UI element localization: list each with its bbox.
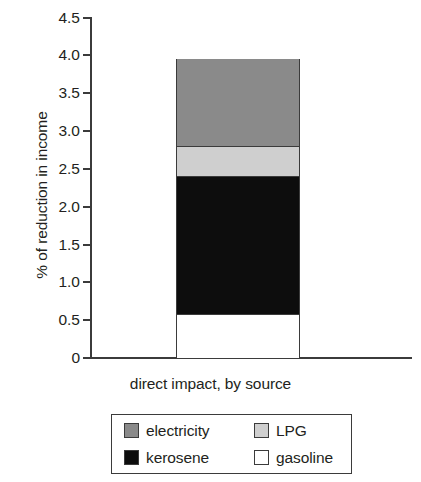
legend-label-gasoline: gasoline [276, 450, 333, 466]
y-axis-tick-label: 4.0 [58, 47, 80, 62]
y-axis-tick-mark [83, 130, 91, 132]
y-axis-tick-mark [83, 319, 91, 321]
y-axis-tick-mark [83, 54, 91, 56]
bar-direct-impact [176, 59, 300, 358]
legend-label-electricity: electricity [146, 423, 210, 439]
y-axis-tick-label: 2.5 [58, 161, 80, 176]
legend-item-gasoline: gasoline [254, 450, 351, 466]
bar-segment-electricity [176, 59, 300, 146]
legend-item-kerosene: kerosene [124, 450, 254, 466]
y-axis-tick-mark [83, 206, 91, 208]
x-axis-title: direct impact, by source [0, 375, 421, 393]
y-axis-line [90, 17, 92, 359]
legend-swatch-gasoline [254, 450, 269, 465]
y-axis-tick-label: 1.0 [58, 274, 80, 289]
y-axis-tick-mark [83, 92, 91, 94]
y-axis-tick-label: 4.5 [58, 10, 80, 25]
legend-swatch-electricity [124, 423, 139, 438]
bar-segment-kerosene [176, 176, 300, 314]
y-axis-tick-mark [83, 281, 91, 283]
legend-swatch-kerosene [124, 450, 139, 465]
y-axis-tick-mark [83, 244, 91, 246]
y-axis-tick-mark [83, 168, 91, 170]
y-axis-tick-label: 0.5 [58, 312, 80, 327]
y-axis-tick-label: 3.0 [58, 123, 80, 138]
y-axis-tick-label: 0 [71, 350, 80, 365]
y-axis-tick-label: 1.5 [58, 237, 80, 252]
legend-item-electricity: electricity [124, 423, 254, 439]
y-axis-tick-label: 2.0 [58, 199, 80, 214]
bar-segment-lpg [176, 146, 300, 176]
legend-item-lpg: LPG [254, 423, 351, 439]
legend-swatch-lpg [254, 423, 269, 438]
y-axis-tick-mark [83, 357, 91, 359]
y-axis-tick-mark [83, 17, 91, 19]
y-axis-tick-label: 3.5 [58, 85, 80, 100]
chart-legend: electricity LPG kerosene gasoline [111, 414, 352, 474]
legend-label-lpg: LPG [276, 423, 307, 439]
y-axis-title: % of reduction in income [33, 65, 51, 325]
stacked-bar-chart: % of reduction in income 4.54.03.53.02.5… [0, 0, 421, 482]
bar-segment-gasoline [176, 314, 300, 358]
legend-label-kerosene: kerosene [146, 450, 209, 466]
